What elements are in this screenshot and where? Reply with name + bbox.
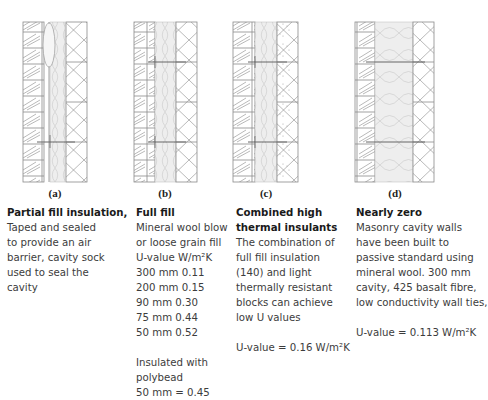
panel-a-description: Partial fill insulation, Taped and seale…	[7, 205, 127, 295]
panel-b-line: or loose grain fill	[136, 235, 228, 250]
panel-c-line: The combination of	[236, 235, 350, 250]
panel-d-uvalue: U-value = 0.113 W/m²K	[356, 325, 488, 340]
panel-b-uvalue-header: U-value W/m²K	[136, 250, 228, 265]
wall-diagram-c	[233, 22, 298, 182]
panel-c-line: low U values	[236, 310, 350, 325]
panel-a-line: used to seal the	[7, 265, 127, 280]
panel-b-line: Mineral wool blow	[136, 220, 228, 235]
panel-label-c: (c)	[251, 187, 281, 199]
panel-b-uvalue-row: 300 mm 0.11	[136, 265, 228, 280]
panel-c-description: Combined high thermal insulants The comb…	[236, 205, 350, 355]
panel-c-line: thermally resistant	[236, 280, 350, 295]
panel-c-line: full fill insulation	[236, 250, 350, 265]
panel-a-line: Taped and sealed	[7, 220, 127, 235]
panel-b-uvalue-row: 200 mm 0.15	[136, 280, 228, 295]
panel-c-uvalue: U-value = 0.16 W/m²K	[236, 340, 350, 355]
panel-d-line: low conductivity wall ties,	[356, 295, 488, 310]
panel-b-title: Full fill	[136, 205, 228, 220]
panel-d-line: passive standard using	[356, 250, 488, 265]
panel-d-line: Masonry cavity walls	[356, 220, 488, 235]
panel-d-description: Nearly zero Masonry cavity walls have be…	[356, 205, 488, 340]
panel-label-a: (a)	[40, 187, 70, 199]
panel-d-line: mineral wool. 300 mm	[356, 265, 488, 280]
panel-b-extra-line: polybead	[136, 370, 228, 385]
panel-c-title: Combined high	[236, 205, 350, 220]
panel-label-b: (b)	[150, 187, 180, 199]
panel-c-line: blocks can achieve	[236, 295, 350, 310]
panel-b-uvalue-row: 90 mm 0.30	[136, 295, 228, 310]
panel-b-extra-line: Insulated with	[136, 355, 228, 370]
panel-a-line: barrier, cavity sock	[7, 250, 127, 265]
panel-b-extra-line: 50 mm = 0.45	[136, 385, 228, 400]
panel-a-line: to provide an air	[7, 235, 127, 250]
panel-d-line: have been built to	[356, 235, 488, 250]
panel-b-description: Full fill Mineral wool blow or loose gra…	[136, 205, 228, 400]
panel-b-uvalue-row: 75 mm 0.44	[136, 310, 228, 325]
wall-diagram-a	[23, 22, 87, 182]
panel-c-title: thermal insulants	[236, 220, 350, 235]
panel-label-d: (d)	[380, 187, 410, 199]
wall-diagram-b	[134, 22, 197, 182]
panel-c-line: (140) and light	[236, 265, 350, 280]
panel-b-uvalue-row: 50 mm 0.52	[136, 325, 228, 340]
panel-d-line: cavity, 425 basalt fibre,	[356, 280, 488, 295]
wall-diagram-d	[355, 22, 434, 182]
panel-a-title: Partial fill insulation,	[7, 205, 127, 220]
panel-d-title: Nearly zero	[356, 205, 488, 220]
panel-a-line: cavity	[7, 280, 127, 295]
